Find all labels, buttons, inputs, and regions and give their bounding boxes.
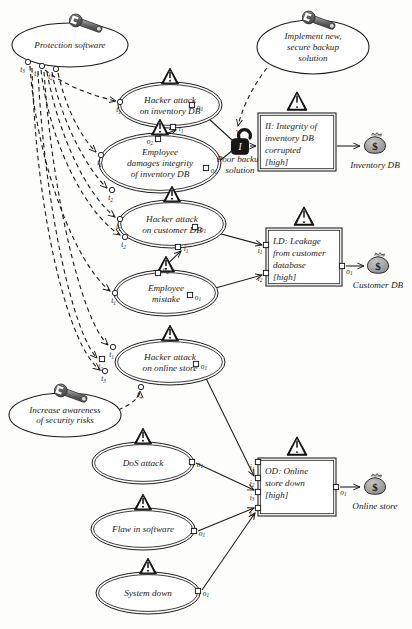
asset-online-store[interactable]: $Online store [352, 474, 397, 511]
threat-label: Hacker attack [145, 214, 199, 224]
port-t2[interactable] [99, 356, 104, 361]
port-label-t4: t4 [137, 390, 142, 400]
incident-label: [high] [273, 272, 297, 282]
port-i2[interactable] [255, 475, 260, 480]
money-bag-icon: $ [367, 253, 388, 274]
incident-label: OD: Online [265, 466, 308, 476]
incident-label: database [273, 260, 306, 270]
port-label-t1: t1 [109, 350, 114, 360]
incident-integrity-of-inventory-db-corrupted[interactable]: II: Integrity ofinventory DBcorrupted[hi… [258, 92, 336, 171]
treatment-label: of security risks [36, 415, 94, 425]
port-i4[interactable] [255, 505, 260, 510]
warning-triangle-icon [135, 428, 152, 444]
warning-triangle-icon [287, 92, 307, 110]
port-i1[interactable] [175, 244, 180, 249]
threat-scenario-flaw-in-software[interactable]: Flaw in software [91, 494, 195, 550]
threat-scenario-system-down[interactable]: System down [96, 558, 200, 614]
port-label-t3: t3 [101, 374, 106, 384]
threat-scenario-dos-attack[interactable]: DoS attack [92, 428, 194, 484]
threat-scenario-hacker-attack-on-inventory-db[interactable]: Hacker attackon inventory DB [118, 68, 222, 128]
port-o1[interactable] [191, 528, 196, 533]
treatment-label: secure backup [287, 42, 339, 52]
port-o1[interactable] [187, 292, 192, 297]
port-t1[interactable] [98, 152, 103, 157]
money-bag-icon: $ [364, 474, 385, 495]
nodes-group: Protection softwareImplement new,secure … [9, 9, 404, 614]
threat-label: Employee [147, 283, 184, 293]
port-t1[interactable] [112, 290, 117, 295]
port-label-o1: o1 [199, 529, 206, 539]
incident-label: from customer [273, 248, 326, 258]
port-i3[interactable] [255, 489, 260, 494]
vulnerability-label: Poor backup [216, 154, 264, 164]
port-t1[interactable] [117, 99, 122, 104]
treatment-label: Increase awareness [28, 405, 101, 415]
incident-label: inventory DB [265, 133, 314, 143]
port-o1[interactable] [339, 263, 344, 268]
port-t3[interactable] [102, 368, 107, 373]
port-i2[interactable] [263, 270, 268, 275]
threat-label: DoS attack [122, 458, 164, 468]
warning-triangle-icon [287, 437, 307, 455]
port-i1[interactable] [255, 459, 260, 464]
port-t2[interactable] [122, 234, 127, 239]
threat-label: on online store [143, 363, 198, 373]
treatment-label: solution [298, 53, 328, 63]
incident-label: LD: Leakage [272, 236, 321, 246]
port-label-t2: t2 [121, 240, 126, 250]
treatment-label: Protection software [33, 40, 105, 50]
asset-label: Online store [352, 501, 397, 511]
port-o1[interactable] [193, 361, 198, 366]
port-label-i2: i2 [250, 479, 255, 489]
threat-label: System down [124, 588, 172, 598]
asset-inventory-db[interactable]: $Inventory DB [349, 133, 400, 170]
treatment-protection-software[interactable]: Protection software [12, 12, 128, 67]
port-t1[interactable] [110, 344, 115, 349]
incident-label: [high] [265, 157, 289, 167]
treatment-implement-new-secure-backup-solution[interactable]: Implement new,secure backupsolution [257, 9, 369, 74]
port-o1[interactable] [333, 484, 338, 489]
asset-symbol: $ [372, 140, 378, 152]
vulnerability-poor-backup-solution[interactable]: IPoor backupsolutionW [216, 128, 264, 175]
port-label-o1: o1 [346, 267, 353, 277]
port-label-i4: i4 [250, 509, 255, 519]
treatment-increase-awareness-of-security-risks[interactable]: Increase awarenessof security risks [9, 382, 121, 437]
threat-scenario-hacker-attack-on-online-store[interactable]: Hacker attackon online store [115, 325, 225, 385]
port-label-o1: o1 [197, 460, 204, 470]
port-t2[interactable] [109, 187, 114, 192]
port-i1[interactable] [263, 242, 268, 247]
threat-label: damages integrity [127, 158, 194, 168]
port-o1[interactable] [203, 165, 208, 170]
warning-triangle-icon [162, 325, 179, 341]
warning-triangle-icon [140, 558, 157, 574]
port-o2[interactable] [155, 270, 160, 275]
port-label-i1: i1 [258, 246, 263, 256]
threat-scenario-hacker-attack-on-customer-db[interactable]: Hacker attackon customer DB [118, 186, 226, 248]
threat-scenario-employee-damages-integrity-of-inventory-db[interactable]: Employeedamages integrityof inventory DB [99, 119, 221, 193]
threat-label: of inventory DB [131, 169, 190, 179]
port-t1[interactable] [117, 216, 122, 221]
money-bag-icon: $ [364, 133, 385, 154]
port-i1[interactable] [170, 124, 175, 129]
asset-label: Inventory DB [349, 160, 400, 170]
incident-label: [high] [265, 490, 289, 500]
port-t3[interactable] [25, 59, 30, 64]
port-label-o1: o1 [340, 488, 347, 498]
risk-diagram-canvas: Protection softwareImplement new,secure … [0, 0, 412, 629]
port-o2[interactable] [155, 136, 160, 141]
port-o1[interactable] [195, 588, 200, 593]
port-t1[interactable] [39, 63, 44, 68]
incident-online-store-down[interactable]: OD: Onlinestore down[high] [258, 437, 336, 516]
port-t4[interactable] [138, 384, 143, 389]
incident-leakage-from-customer-database[interactable]: LD: Leakagefrom customerdatabase[high] [266, 207, 342, 286]
treatment-label: Implement new, [284, 31, 342, 41]
port-o1[interactable] [189, 459, 194, 464]
asset-customer-db[interactable]: $Customer DB [353, 253, 404, 290]
threat-label: Employee [141, 147, 178, 157]
incident-label: corrupted [265, 145, 301, 155]
port-o1[interactable] [189, 102, 194, 107]
port-label-t3: t3 [20, 65, 25, 75]
port-t2[interactable] [53, 66, 58, 71]
port-o1[interactable] [192, 224, 197, 229]
asset-symbol: $ [372, 481, 378, 493]
